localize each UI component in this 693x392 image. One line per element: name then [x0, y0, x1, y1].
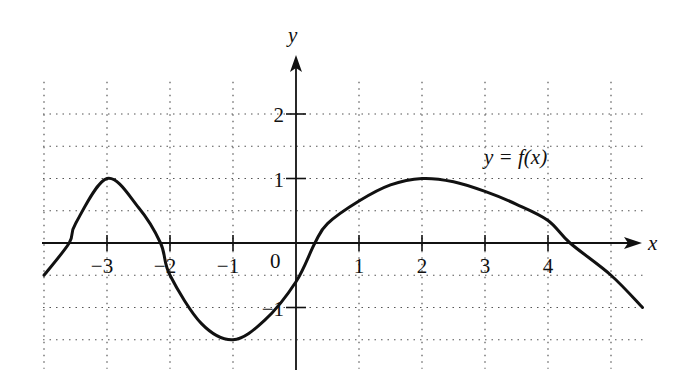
- curve-label: y = f(x): [482, 145, 547, 169]
- ticks: −3−2−1123421−1: [91, 103, 554, 321]
- x-axis-label: x: [647, 231, 658, 255]
- x-tick-label: 3: [480, 254, 491, 278]
- y-tick-label: 2: [274, 103, 285, 127]
- y-axis-label: y: [286, 23, 298, 47]
- x-tick-label: 2: [417, 254, 428, 278]
- y-tick-label: 1: [274, 168, 285, 192]
- y-tick-label: −1: [262, 297, 284, 321]
- x-tick-label: −3: [91, 254, 113, 278]
- x-tick-label: 4: [543, 254, 554, 278]
- x-tick-label: 1: [354, 254, 365, 278]
- function-graph: −3−2−1123421−1 x y 0 y = f(x): [0, 0, 693, 392]
- origin-label: 0: [270, 249, 281, 273]
- x-tick-label: −1: [217, 254, 239, 278]
